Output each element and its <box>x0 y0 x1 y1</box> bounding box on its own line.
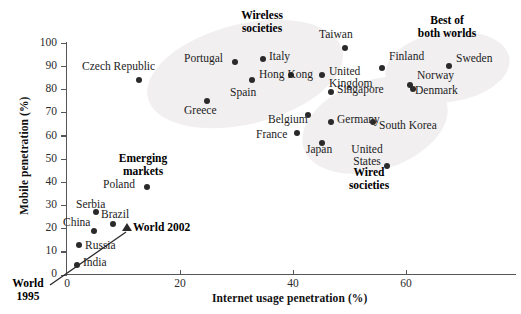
point-label-south-korea: South Korea <box>379 119 437 131</box>
point-label-world-2002: World 2002 <box>133 221 190 233</box>
point-label-hong-kong: Hong Kong <box>259 68 313 80</box>
point-china[interactable] <box>91 228 97 234</box>
point-label-united-states: United States <box>347 143 387 167</box>
scatter-plot-area: 100 90 80 70 60 50 40 30 20 10 0 0 20 40… <box>0 0 521 314</box>
point-label-singapore: Singapore <box>337 83 384 95</box>
point-south-korea[interactable] <box>370 119 376 125</box>
annotation-emerging-markets: Emerging markets <box>104 152 182 177</box>
point-label-taiwan: Taiwan <box>319 28 353 40</box>
point-world-2002[interactable] <box>122 223 132 231</box>
point-taiwan[interactable] <box>342 45 348 51</box>
point-label-japan: Japan <box>306 143 332 155</box>
point-label-finland: Finland <box>389 50 424 62</box>
point-germany[interactable] <box>328 119 334 125</box>
point-poland[interactable] <box>144 184 150 190</box>
point-singapore[interactable] <box>328 89 334 95</box>
point-label-russia: Russia <box>85 239 116 251</box>
annotation-wireless-societies: Wireless societies <box>220 9 304 34</box>
point-label-sweden: Sweden <box>456 52 492 64</box>
point-label-greece: Greece <box>184 104 217 116</box>
point-label-norway: Norway <box>417 69 454 81</box>
point-label-poland: Poland <box>103 178 135 190</box>
annotation-best-of-both-worlds: Best of both worlds <box>399 14 495 39</box>
point-spain[interactable] <box>249 77 255 83</box>
point-label-portugal: Portugal <box>184 52 223 64</box>
point-portugal[interactable] <box>232 59 238 65</box>
point-label-czech-republic: Czech Republic <box>82 60 155 72</box>
point-label-spain: Spain <box>230 86 256 98</box>
label-world-1995: World 1995 <box>2 277 54 302</box>
point-label-india: India <box>83 256 107 268</box>
annotation-wired-societies: Wired societies <box>330 166 408 191</box>
point-czech-republic[interactable] <box>136 77 142 83</box>
point-india[interactable] <box>74 262 80 268</box>
point-label-belgium: Belgium <box>268 113 308 125</box>
chart-figure: 100 90 80 70 60 50 40 30 20 10 0 0 20 40… <box>0 0 521 314</box>
point-label-italy: Italy <box>269 50 290 62</box>
point-label-denmark: Denmark <box>415 84 458 96</box>
point-label-brazil: Brazil <box>101 208 129 220</box>
point-label-france: France <box>256 128 287 140</box>
point-label-china: China <box>63 216 90 228</box>
point-greece[interactable] <box>204 98 210 104</box>
